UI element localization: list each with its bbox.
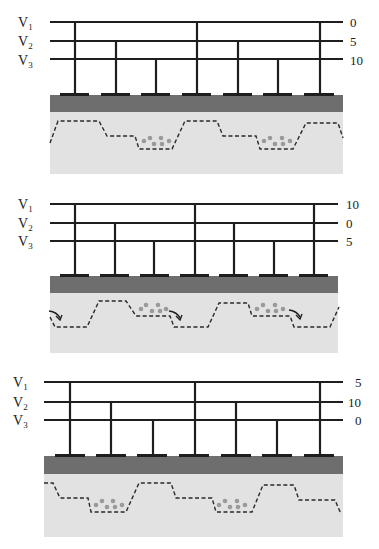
voltage-values: 0 5 10: [350, 15, 363, 68]
substrate: [50, 293, 338, 353]
svg-text:5: 5: [350, 34, 357, 49]
svg-text:0: 0: [355, 413, 362, 428]
voltage-labels: V1 V2 V3: [18, 197, 33, 251]
panel-3: V1 V2 V3 5 10 0: [13, 375, 362, 537]
panel-2: V1 V2 V3 10 0 5: [18, 197, 359, 353]
svg-text:0: 0: [346, 216, 353, 231]
voltage-labels: V1 V2 V3: [18, 15, 33, 70]
svg-text:0: 0: [350, 15, 357, 30]
oxide-layer: [44, 456, 343, 474]
substrate: [44, 474, 343, 537]
svg-text:V3: V3: [18, 53, 33, 70]
oxide-layer: [50, 95, 343, 112]
svg-text:V1: V1: [18, 197, 33, 214]
svg-text:10: 10: [348, 395, 361, 410]
svg-text:V1: V1: [18, 15, 33, 32]
svg-text:V2: V2: [13, 395, 28, 412]
oxide-layer: [50, 276, 338, 293]
svg-text:5: 5: [346, 234, 353, 249]
clock-bus-lines: [50, 204, 338, 276]
voltage-values: 5 10 0: [348, 375, 362, 428]
svg-text:V2: V2: [18, 216, 33, 233]
svg-text:10: 10: [350, 53, 363, 68]
voltage-labels: V1 V2 V3: [13, 375, 28, 430]
svg-text:V2: V2: [18, 34, 33, 51]
clock-bus-lines: [44, 382, 343, 456]
svg-text:V3: V3: [13, 413, 28, 430]
svg-text:V1: V1: [13, 375, 28, 392]
voltage-values: 10 0 5: [346, 197, 359, 249]
ccd-diagram: V1 V2 V3 0 5 10: [0, 0, 379, 549]
gate-electrodes: [60, 274, 328, 277]
clock-bus-lines: [50, 22, 343, 95]
svg-text:5: 5: [355, 375, 362, 390]
svg-text:V3: V3: [18, 234, 33, 251]
svg-text:10: 10: [346, 197, 359, 212]
panel-1: V1 V2 V3 0 5 10: [18, 15, 363, 174]
